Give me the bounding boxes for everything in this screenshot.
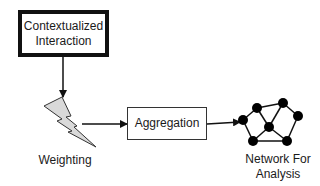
- aggregation-box: Aggregation: [127, 107, 207, 140]
- network-label: Network For Analysis: [238, 152, 318, 182]
- lightning-bolt-icon: [44, 97, 96, 147]
- contextualized-interaction-line1: Contextualized: [24, 19, 103, 34]
- diagram-canvas: Contextualized Interaction Aggregation W…: [0, 0, 320, 186]
- contextualized-interaction-box: Contextualized Interaction: [18, 10, 109, 57]
- contextualized-interaction-line2: Interaction: [24, 34, 103, 49]
- network-graph-icon: [238, 98, 303, 146]
- network-label-line1: Network For: [238, 152, 318, 167]
- arrow-aggregation-to-network: [207, 122, 240, 124]
- network-label-line2: Analysis: [238, 167, 318, 182]
- weighting-label: Weighting: [30, 153, 100, 168]
- aggregation-label: Aggregation: [135, 116, 200, 131]
